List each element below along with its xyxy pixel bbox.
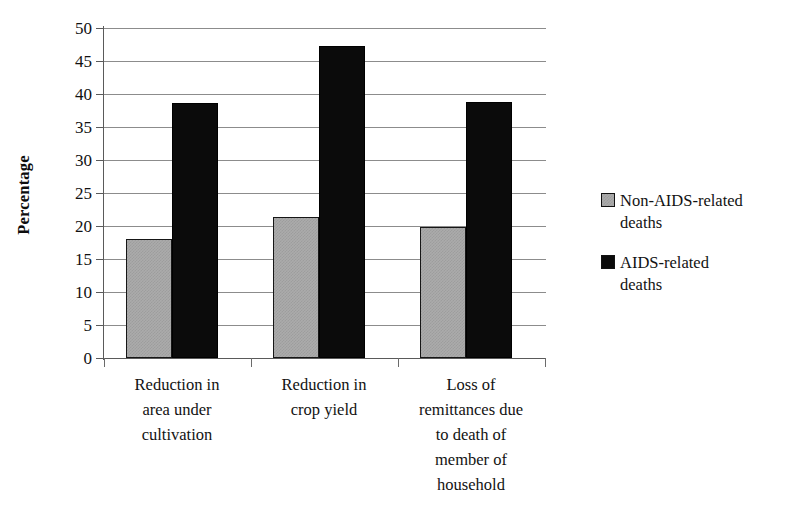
y-axis-title: Percentage: [14, 130, 40, 260]
bar-non-aids-related-deaths[interactable]: [273, 217, 319, 358]
y-tick-mark: [96, 193, 104, 194]
y-tick-label: 10: [52, 284, 92, 301]
category-label-line: crop yield: [249, 397, 399, 422]
y-tick-label: 0: [52, 350, 92, 367]
y-tick-label: 45: [52, 53, 92, 70]
y-tick-mark: [96, 160, 104, 161]
category-divider: [545, 358, 546, 367]
category-label-line: Reduction in: [249, 372, 399, 397]
category-divider: [104, 358, 105, 367]
y-tick-mark: [96, 292, 104, 293]
y-tick-mark: [96, 325, 104, 326]
y-tick-mark: [96, 358, 104, 359]
y-tick-label: 30: [52, 152, 92, 169]
plot-area: [104, 28, 546, 358]
legend-label-line: deaths: [620, 212, 779, 234]
legend-label-line: Non-AIDS-related: [620, 190, 779, 212]
y-tick-mark: [96, 61, 104, 62]
bar-non-aids-related-deaths[interactable]: [126, 239, 172, 358]
category-label-line: member of: [396, 447, 546, 472]
legend-item-non-aids-related-deaths[interactable]: Non-AIDS-related deaths: [601, 190, 779, 234]
y-tick-label: 15: [52, 251, 92, 268]
category-divider: [251, 358, 252, 367]
bar-non-aids-related-deaths[interactable]: [420, 227, 466, 358]
y-tick-label: 25: [52, 185, 92, 202]
bar-chart-figure: Percentage 50 45 40 35 30 25 20 15 10 5 …: [0, 0, 789, 524]
legend-label-line: deaths: [620, 274, 779, 296]
y-tick-label: 40: [52, 86, 92, 103]
legend-swatch-black-icon: [601, 255, 615, 269]
category-label-line: cultivation: [102, 422, 252, 447]
y-tick-label: 5: [52, 317, 92, 334]
legend-swatch-gray-icon: [601, 193, 615, 207]
category-label-3: Loss of remittances due to death of memb…: [396, 372, 546, 497]
category-label-line: Loss of: [396, 372, 546, 397]
category-label-1: Reduction in area under cultivation: [102, 372, 252, 447]
legend-item-aids-related-deaths[interactable]: AIDS-related deaths: [601, 252, 779, 296]
y-tick-mark: [96, 226, 104, 227]
y-axis-tick-labels: 50 45 40 35 30 25 20 15 10 5 0: [44, 0, 92, 524]
y-tick-mark: [96, 127, 104, 128]
gridline: [104, 28, 546, 29]
y-tick-mark: [96, 28, 104, 29]
legend-label-line: AIDS-related: [620, 252, 779, 274]
chart-legend: Non-AIDS-related deaths AIDS-related dea…: [601, 190, 779, 314]
y-tick-mark: [96, 94, 104, 95]
bar-aids-related-deaths[interactable]: [466, 102, 512, 358]
category-label-line: to death of: [396, 422, 546, 447]
y-tick-label: 50: [52, 20, 92, 37]
y-tick-label: 20: [52, 218, 92, 235]
category-label-line: area under: [102, 397, 252, 422]
category-divider: [398, 358, 399, 367]
y-tick-mark: [96, 259, 104, 260]
category-label-line: remittances due: [396, 397, 546, 422]
bar-aids-related-deaths[interactable]: [319, 46, 365, 358]
category-label-line: household: [396, 472, 546, 497]
x-axis-baseline: [104, 358, 546, 359]
y-tick-label: 35: [52, 119, 92, 136]
bar-aids-related-deaths[interactable]: [172, 103, 218, 358]
category-label-2: Reduction in crop yield: [249, 372, 399, 422]
category-label-line: Reduction in: [102, 372, 252, 397]
